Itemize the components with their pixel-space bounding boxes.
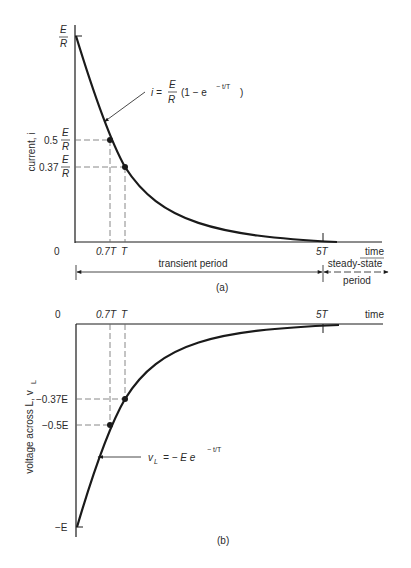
a-xtick-t: T <box>121 246 128 257</box>
b-ytick-037: −0.37E <box>36 394 68 405</box>
a-ytick-05-den: R <box>62 141 69 152</box>
rl-transient-diagram: i = E R (1 − e − t/T ) E R 0.5 E R 0.37 … <box>0 0 411 568</box>
b-eq-lhs-sub: L <box>154 458 158 465</box>
transient-period-label: transient period <box>159 258 228 269</box>
b-xtick-5t: 5T <box>316 309 329 320</box>
a-eq-exponent: − t/T <box>216 83 231 90</box>
a-eq-lhs: i = <box>151 87 162 98</box>
b-origin-label: 0 <box>55 309 61 320</box>
a-eq-num: E <box>169 79 176 90</box>
a-point-0.37 <box>122 164 128 170</box>
a-ytick-037-den: R <box>62 168 69 179</box>
figure-a: i = E R (1 − e − t/T ) E R 0.5 E R 0.37 … <box>26 24 388 293</box>
a-y-axis-label: current, i <box>26 133 37 172</box>
b-eq-body: = − E e <box>163 452 196 463</box>
a-ytick-037-num: E <box>62 154 69 165</box>
a-equation-arrow <box>104 92 145 122</box>
steady-state-label: steady-state <box>328 258 383 269</box>
a-guides <box>75 140 125 242</box>
a-ytick-05-prefix: 0.5 <box>44 135 58 146</box>
a-xtick-5t: 5T <box>316 246 329 257</box>
b-ytick-minus-e: −E <box>55 522 68 533</box>
a-ytick-er-num: E <box>60 24 67 35</box>
a-eq-close: ) <box>240 87 243 98</box>
steady-state-period-label: period <box>343 275 371 286</box>
b-voltage-curve <box>77 325 339 527</box>
b-xtick-07t: 0.7T <box>96 309 117 320</box>
figure-b: v L = − E e − t/T −0.37E −0.5E −E voltag… <box>24 309 384 546</box>
a-caption: (a) <box>216 282 228 293</box>
b-point-05 <box>107 422 113 428</box>
b-guides <box>76 324 125 425</box>
a-xtick-07t: 0.7T <box>96 246 117 257</box>
a-eq-den: R <box>168 94 175 105</box>
b-x-axis-label: time <box>365 309 384 320</box>
b-ytick-05: −0.5E <box>42 420 69 431</box>
a-ytick-037-prefix: 0.37 <box>39 162 59 173</box>
a-ytick-er-den: R <box>60 38 67 49</box>
b-caption: (b) <box>217 535 229 546</box>
a-ytick-05-num: E <box>62 127 69 138</box>
b-eq-exponent: − t/T <box>207 446 222 453</box>
b-point-037 <box>122 396 128 402</box>
b-y-axis-label: voltage across L, v <box>24 390 35 473</box>
a-eq-body: (1 − e <box>181 87 207 98</box>
b-xtick-t: T <box>121 309 128 320</box>
a-point-0.5 <box>107 137 113 143</box>
a-origin-label: 0 <box>54 246 60 257</box>
a-current-curve <box>76 36 337 242</box>
b-y-axis-label-sub: L <box>30 380 37 384</box>
a-x-axis-label: time <box>365 246 384 257</box>
